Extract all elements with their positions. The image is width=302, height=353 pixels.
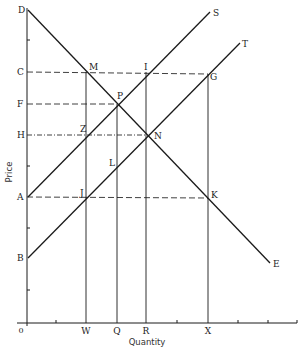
- label-M: M: [89, 62, 98, 72]
- guide-A: [27, 197, 208, 198]
- label-K: K: [211, 190, 218, 200]
- label-Z: Z: [80, 124, 86, 134]
- label-D: D: [18, 5, 25, 15]
- label-R: R: [143, 326, 150, 336]
- label-W: W: [81, 326, 91, 336]
- quantity-labels: 0 W Q R X: [18, 326, 211, 336]
- curve-labels: S T E: [213, 8, 280, 269]
- x-axis-title: Quantity: [129, 337, 166, 347]
- label-L: L: [109, 158, 115, 168]
- label-J: J: [79, 188, 84, 198]
- supply-demand-diagram: D C F H A B Price 0 W Q R X Quantity S T…: [0, 0, 302, 353]
- guide-C: [27, 72, 208, 74]
- label-B: B: [17, 253, 24, 263]
- label-Q: Q: [113, 326, 120, 336]
- label-origin: 0: [18, 326, 23, 335]
- label-X: X: [205, 326, 212, 336]
- label-H: H: [17, 130, 25, 140]
- supply-curve-AS: [28, 12, 210, 197]
- label-G: G: [210, 72, 217, 82]
- curves: [28, 10, 270, 263]
- point-labels: M I G P Z N L J K: [79, 62, 218, 200]
- label-F: F: [17, 99, 23, 109]
- label-T: T: [242, 39, 248, 49]
- y-axis-title: Price: [4, 162, 14, 183]
- price-labels: D C F H A B: [16, 5, 25, 263]
- label-C: C: [17, 67, 24, 77]
- label-P: P: [117, 91, 123, 101]
- label-A: A: [16, 192, 24, 202]
- label-I: I: [144, 62, 148, 72]
- demand-curve-DE: [28, 10, 270, 263]
- axes: [17, 8, 297, 326]
- label-E: E: [273, 259, 280, 269]
- label-N: N: [154, 131, 162, 141]
- label-S: S: [213, 8, 219, 18]
